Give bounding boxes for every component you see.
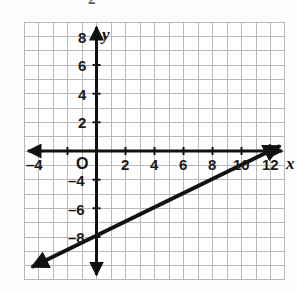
- top-partial-glyph: 2: [88, 0, 96, 8]
- y-tick-label-4: 4: [78, 87, 86, 102]
- y-axis-name: y: [102, 26, 110, 43]
- x-tick-label--4: –4: [26, 157, 43, 172]
- x-tick-label-12: 12: [262, 157, 279, 172]
- x-tick-label-8: 8: [208, 157, 216, 172]
- plotted-line: [24, 22, 285, 280]
- coordinate-plane: O –4 2 4 6 8 10 12 8 6 4 2 –4 –6 –8 y x: [24, 22, 285, 280]
- y-tick-label-6: 6: [78, 58, 86, 73]
- y-tick-label--8: –8: [68, 230, 85, 245]
- x-tick-label-2: 2: [121, 157, 129, 172]
- y-tick-label--6: –6: [68, 202, 85, 217]
- graph-figure: 2: [0, 0, 297, 292]
- x-tick-label-10: 10: [233, 157, 250, 172]
- x-tick-label-4: 4: [150, 157, 158, 172]
- origin-label: O: [76, 156, 88, 172]
- y-tick-label-8: 8: [78, 30, 86, 45]
- x-axis-name: x: [286, 155, 295, 172]
- x-tick-label-6: 6: [179, 157, 187, 172]
- y-tick-label-2: 2: [78, 115, 86, 130]
- y-tick-label--4: –4: [68, 173, 85, 188]
